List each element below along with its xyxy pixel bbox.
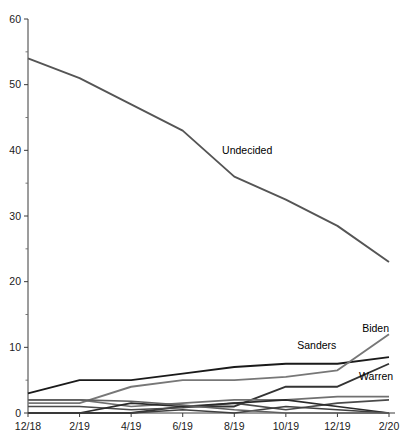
x-tick-labels: 12/182/194/196/198/1910/1912/192/20 — [15, 420, 400, 432]
x-tick-label: 12/19 — [324, 420, 350, 432]
x-tick-label: 10/19 — [273, 420, 299, 432]
series-label-undecided: Undecided — [222, 144, 272, 156]
axes-group — [28, 19, 395, 413]
y-tick-label: 40 — [9, 144, 21, 156]
y-tick-label: 20 — [9, 275, 21, 287]
y-tick-label: 60 — [9, 13, 21, 25]
x-tick-label: 8/19 — [224, 420, 245, 432]
chart-canvas: 0102030405060 12/182/194/196/198/1910/19… — [0, 0, 402, 444]
series-label-sanders: Sanders — [297, 339, 336, 351]
series-annotations: UndecidedSandersBidenWarren — [222, 144, 393, 383]
x-tick-label: 12/18 — [15, 420, 41, 432]
line-chart: 0102030405060 12/182/194/196/198/1910/19… — [0, 0, 402, 444]
data-lines-group — [28, 58, 389, 413]
x-tick-label: 4/19 — [121, 420, 142, 432]
data-line-sanders — [28, 357, 389, 393]
x-tick-label: 6/19 — [172, 420, 193, 432]
series-label-warren: Warren — [359, 370, 393, 382]
y-tick-label: 10 — [9, 341, 21, 353]
series-label-biden: Biden — [362, 322, 389, 334]
y-tick-marks — [24, 19, 28, 413]
y-tick-labels: 0102030405060 — [9, 13, 21, 419]
x-tick-label: 2/20 — [379, 420, 400, 432]
y-tick-label: 0 — [15, 407, 21, 419]
data-line-undecided — [28, 58, 389, 262]
y-tick-label: 50 — [9, 78, 21, 90]
x-tick-label: 2/19 — [69, 420, 90, 432]
y-tick-label: 30 — [9, 210, 21, 222]
